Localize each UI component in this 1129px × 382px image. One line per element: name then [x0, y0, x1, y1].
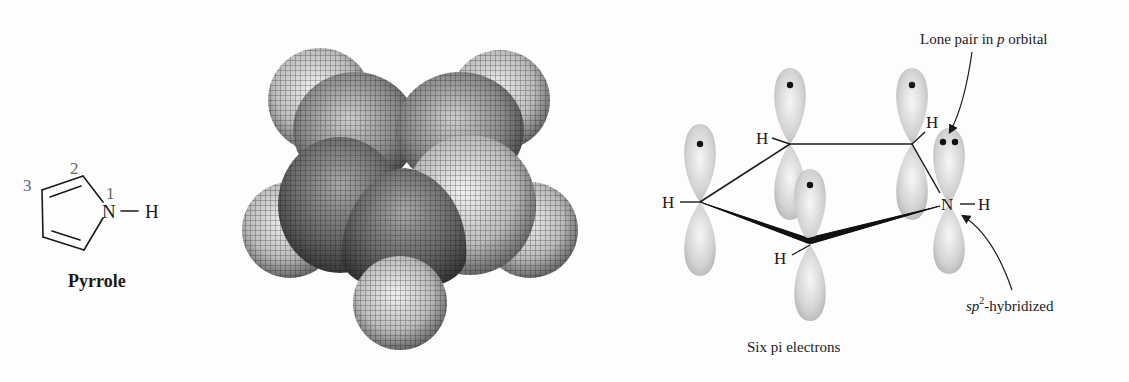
h-top-right-label: H — [926, 114, 938, 131]
hybridized-annotation: sp2-hybridized — [966, 296, 1053, 314]
six-pi-electrons-caption: Six pi electrons — [747, 340, 840, 355]
orbital-diagram — [0, 0, 1129, 382]
p-orbital-left-carbon — [684, 124, 716, 276]
lone-pair-annotation: Lone pair in p orbital — [920, 32, 1047, 47]
hybridized-arrow — [963, 216, 1012, 290]
h-top-label: H — [756, 130, 768, 147]
nitrogen-label-orbital: N — [941, 196, 953, 213]
h-bottom-label: H — [774, 250, 786, 267]
h-left-label: H — [662, 194, 674, 211]
h-nitrogen-label: H — [978, 196, 990, 213]
lone-pair-arrow — [950, 52, 972, 132]
